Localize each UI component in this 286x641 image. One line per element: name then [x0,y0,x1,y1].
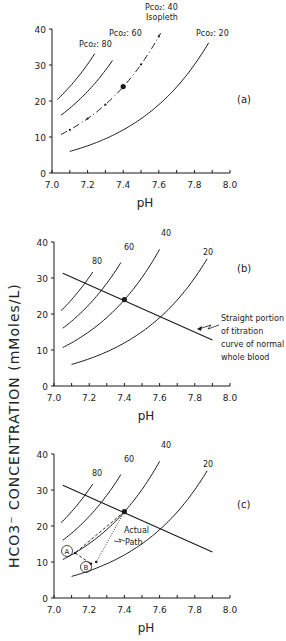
y-tick-label: 10 [37,558,49,568]
x-tick-label: 7.2 [82,393,96,403]
x-axis-title: pH [138,621,155,635]
label-80: 80 [92,257,102,266]
isopleth-pco2-20 [72,471,208,577]
x-tick-label: 7.4 [117,393,132,403]
chart-panel-a: 7.07.27.47.67.88.0010203040pH(a)Pco₂: 80… [35,3,251,210]
y-tick-label: 40 [37,450,49,460]
x-tick-label: 7.0 [45,180,60,190]
label-40: 40 [161,441,171,450]
normal-point [121,84,126,89]
x-tick-label: 8.0 [223,180,238,190]
x-tick-label: 8.0 [223,605,238,615]
isopleth-pco2-80 [61,484,93,523]
y-tick-label: 40 [35,25,47,35]
x-tick-label: 7.8 [187,180,202,190]
normal-point [122,509,127,514]
annotation-note: Straight portion [221,314,284,323]
y-tick-label: 0 [42,382,48,392]
isopleth-pco2-40 [63,461,160,559]
label-60: 60 [124,243,134,252]
y-tick-label: 30 [37,274,49,284]
isopleth-pco2-40 [63,249,160,347]
label-pco2-60: Pco₂: 60 [109,29,142,38]
normal-point [122,297,127,302]
actual-path [96,512,124,562]
y-axis-title-text: HCO3⁻ CONCENTRATION (mMoles/L) [6,283,22,568]
y-tick-label: 0 [40,169,46,179]
x-tick-label: 7.6 [152,180,167,190]
isopleth-pco2-20 [72,259,208,365]
x-tick-label: 7.8 [188,393,203,403]
y-tick-label: 30 [37,486,49,496]
y-tick-label: 40 [37,238,49,248]
label-20: 20 [203,460,213,469]
isopleth-pco2-80 [61,272,93,311]
x-tick-label: 7.2 [82,605,96,615]
label-40: 40 [161,229,171,238]
x-tick-label: 7.8 [188,605,203,615]
label-pco2-40: Pco₂: 40 [145,3,178,12]
chart-panel-b: 7.07.27.47.67.88.0010203040pH(b)80604020… [37,229,285,423]
y-tick-label: 0 [42,594,48,604]
marker-a-label: A [65,548,70,556]
x-tick-label: 7.6 [152,605,167,615]
annotation-note: whole blood [221,353,269,362]
y-axis-title: HCO3⁻ CONCENTRATION (mMoles/L) [2,200,22,580]
x-tick-label: 8.0 [223,393,238,403]
x-tick-label: 7.0 [47,605,62,615]
marker-b-label: B [84,564,89,572]
chart-panel-c: 7.07.27.47.67.88.0010203040pH(c)80604020… [37,441,251,635]
y-tick-label: 30 [35,61,47,71]
x-tick-label: 7.6 [152,393,167,403]
y-tick-label: 10 [37,346,49,356]
annotation-note: of titration [221,327,263,336]
figure-canvas: 7.07.27.47.67.88.0010203040pH(a)Pco₂: 80… [0,0,286,641]
label-isopleth: Isopleth [146,13,178,22]
isopleth-pco2-80 [57,54,94,100]
x-tick-label: 7.0 [47,393,62,403]
x-axis-title: pH [137,196,154,210]
x-tick-label: 7.2 [80,180,94,190]
y-tick-label: 10 [35,133,47,143]
y-tick-label: 20 [37,522,49,532]
arrow-icon [199,325,219,329]
label-20: 20 [203,248,213,257]
label-60: 60 [124,455,134,464]
panel-label: (b) [237,263,251,274]
x-tick-label: 7.4 [117,605,132,615]
y-tick-label: 20 [37,310,49,320]
x-tick-label: 7.4 [116,180,131,190]
y-tick-label: 20 [35,97,47,107]
panel-label: (a) [237,94,251,105]
label-actual: Actual [124,526,149,535]
path-A [75,512,124,553]
annotation-note: curve of normal [221,340,284,349]
label-path: Path [125,538,143,547]
label-pco2-20: Pco₂: 20 [196,29,229,38]
x-axis-title: pH [138,409,155,423]
label-80: 80 [92,469,102,478]
panel-label: (c) [237,499,250,510]
label-pco2-80: Pco₂: 80 [79,40,112,49]
